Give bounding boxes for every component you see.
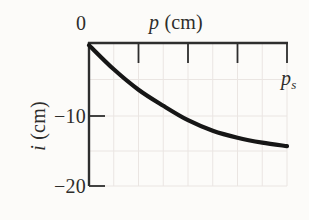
origin-label: 0 xyxy=(70,13,92,34)
y-tick-label-minus10: −10 xyxy=(46,106,86,127)
figure-canvas: 0 p (cm) i (cm) −10 −20 ps xyxy=(0,0,309,220)
x-axis-variable: p xyxy=(149,11,159,33)
y-tick-label-minus20: −20 xyxy=(46,176,86,197)
x-axis-title: p (cm) xyxy=(126,12,226,33)
x-axis-unit: (cm) xyxy=(164,11,203,33)
y-axis-variable: i xyxy=(27,145,49,151)
ps-annotation-subscript: s xyxy=(291,77,296,92)
ps-annotation: ps xyxy=(281,67,296,96)
ps-annotation-base: p xyxy=(281,67,291,89)
